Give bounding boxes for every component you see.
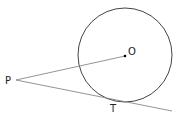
tangent-diagram: O P T [0, 0, 183, 119]
center-point [124, 55, 127, 58]
label-t: T [109, 103, 117, 114]
label-o: O [128, 46, 136, 57]
label-p: P [5, 75, 11, 86]
segment-po [16, 56, 125, 80]
